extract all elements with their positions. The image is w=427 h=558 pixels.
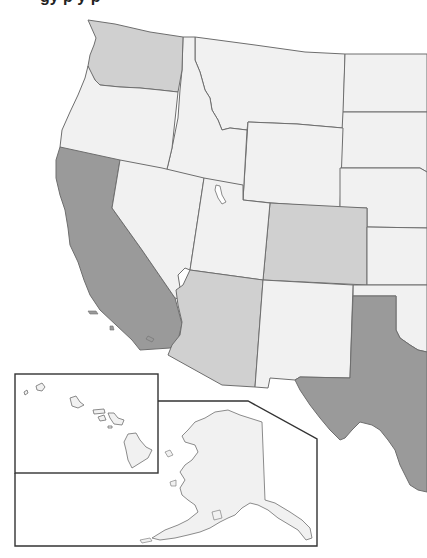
state-colorado[interactable] [263, 203, 367, 285]
state-washington[interactable] [88, 20, 183, 92]
state-alaska[interactable] [152, 410, 312, 540]
state-new-mexico[interactable] [255, 280, 353, 388]
state-kansas[interactable] [367, 227, 427, 285]
state-arizona[interactable] [168, 270, 263, 387]
state-wyoming[interactable] [243, 122, 343, 208]
state-north-dakota[interactable] [343, 54, 427, 112]
hawaii-islands[interactable] [24, 383, 152, 468]
us-west-map [0, 0, 427, 558]
state-montana[interactable] [195, 37, 345, 130]
state-south-dakota[interactable] [340, 112, 427, 172]
